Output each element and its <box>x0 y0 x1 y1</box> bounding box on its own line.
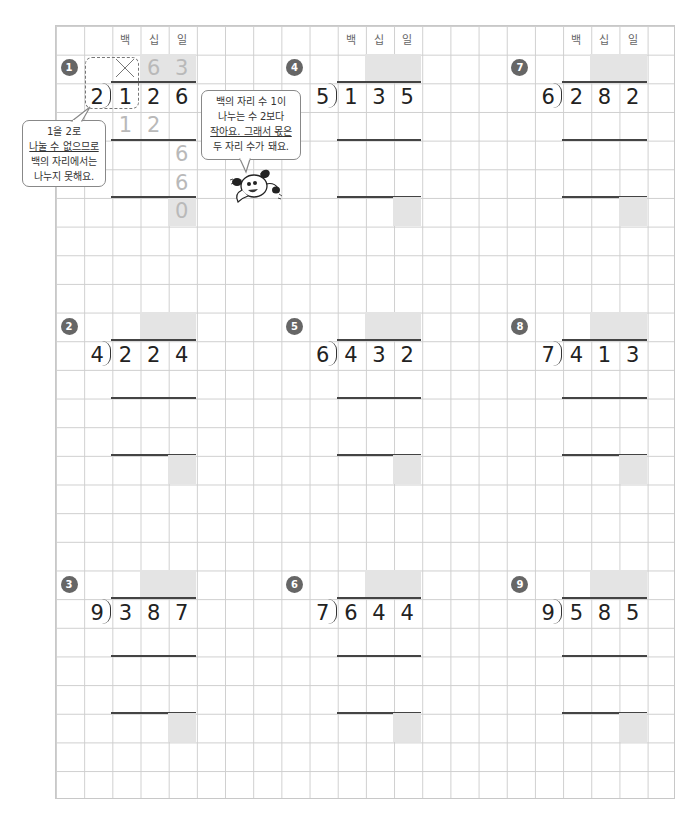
problem-number-badge: 7 <box>511 59 528 76</box>
remainder-cell[interactable] <box>393 197 421 226</box>
dividend-digit: 4 <box>365 598 393 627</box>
quotient-cell-ones[interactable] <box>393 570 421 599</box>
quotient-cell-ones[interactable] <box>619 54 647 83</box>
hint-line: 작아요. 그래서 몫은 <box>202 124 300 139</box>
place-value-header: 십 <box>590 25 618 54</box>
subtraction-line <box>111 139 196 141</box>
place-value-header: 십 <box>365 25 393 54</box>
dividend-digit: 8 <box>590 598 618 627</box>
quotient-cell-tens[interactable] <box>590 570 618 599</box>
subtraction-line <box>337 397 422 399</box>
quotient-cell-tens[interactable] <box>365 54 393 83</box>
dividend-digit: 3 <box>619 340 647 369</box>
subtraction-line <box>562 655 647 657</box>
dividend-digit: 3 <box>365 82 393 111</box>
place-value-header: 백 <box>562 25 590 54</box>
quotient-cell-ones[interactable] <box>393 312 421 341</box>
subtraction-line <box>111 397 196 399</box>
quotient-cell-ones[interactable] <box>619 312 647 341</box>
quotient-cell-ones[interactable] <box>619 570 647 599</box>
problem-number-badge: 1 <box>61 59 78 76</box>
dividend-digit: 8 <box>140 598 168 627</box>
subtraction-line <box>111 655 196 657</box>
dividend-digit: 8 <box>590 82 618 111</box>
place-value-header: 일 <box>393 25 421 54</box>
remainder-cell[interactable] <box>393 713 421 742</box>
hint-bubble-mascot: 백의 자리 수 1이 나누는 수 2보다 작아요. 그래서 몫은 두 자리 수가… <box>201 90 301 160</box>
place-value-header: 백 <box>337 25 365 54</box>
dividend-digit: 5 <box>619 598 647 627</box>
dividend-digit: 3 <box>365 340 393 369</box>
mascot-icon <box>224 168 286 208</box>
quotient-cell-ones[interactable] <box>168 570 196 599</box>
dividend-digit: 5 <box>393 82 421 111</box>
problem-number-cell: 7 <box>506 54 534 83</box>
problem-number-cell: 6 <box>280 570 308 599</box>
hint-line: 나눌 수 없으므로 <box>23 139 105 154</box>
remainder-cell[interactable] <box>168 455 196 484</box>
subtraction-line <box>562 397 647 399</box>
dividend-digit: 2 <box>562 82 590 111</box>
quotient-cell-ones[interactable] <box>168 312 196 341</box>
remainder-cell[interactable] <box>168 713 196 742</box>
subtraction-line <box>337 655 422 657</box>
hint-line: 나누는 수 2보다 <box>202 109 300 124</box>
problem-number-badge: 8 <box>511 318 528 335</box>
work-digit[interactable]: 0 <box>168 197 196 226</box>
dividend-digit: 5 <box>562 598 590 627</box>
work-digit[interactable]: 1 <box>111 111 139 140</box>
quotient-digit[interactable]: 3 <box>168 54 196 83</box>
subtraction-line <box>111 196 196 198</box>
remainder-cell[interactable] <box>393 455 421 484</box>
dividend-digit: 3 <box>111 598 139 627</box>
hint-line: 두 자리 수가 돼요. <box>202 139 300 154</box>
place-value-header: 일 <box>619 25 647 54</box>
dividend-digit: 2 <box>140 340 168 369</box>
subtraction-line <box>562 139 647 141</box>
dividend-digit: 1 <box>337 82 365 111</box>
problem-number-badge: 5 <box>286 318 303 335</box>
remainder-cell[interactable] <box>619 197 647 226</box>
remainder-cell[interactable] <box>619 713 647 742</box>
dividend-digit: 6 <box>168 82 196 111</box>
place-value-header: 백 <box>111 25 139 54</box>
dividend-digit: 4 <box>562 340 590 369</box>
hint-line: 백의 자리에서는 <box>23 154 105 169</box>
dividend-digit: 2 <box>619 82 647 111</box>
dividend-digit: 2 <box>393 340 421 369</box>
quotient-cell-tens[interactable] <box>365 312 393 341</box>
place-value-header: 십 <box>140 25 168 54</box>
hint-line: 1을 2로 <box>23 124 105 139</box>
problem-number-badge: 4 <box>286 59 303 76</box>
dividend-digit: 1 <box>590 340 618 369</box>
quotient-cell-tens[interactable] <box>140 570 168 599</box>
quotient-cell-tens[interactable] <box>140 312 168 341</box>
work-digit[interactable]: 2 <box>140 111 168 140</box>
problem-number-cell: 8 <box>506 312 534 341</box>
quotient-cell-tens[interactable] <box>590 312 618 341</box>
problem-number-cell: 4 <box>280 54 308 83</box>
dividend-digit: 7 <box>168 598 196 627</box>
problem-number-cell: 1 <box>55 54 83 83</box>
quotient-digit[interactable]: 6 <box>140 54 168 83</box>
problem-number-cell: 5 <box>280 312 308 341</box>
work-digit[interactable]: 6 <box>168 168 196 197</box>
hundreds-highlight-box <box>85 57 138 109</box>
dividend-digit: 2 <box>140 82 168 111</box>
remainder-cell[interactable] <box>619 455 647 484</box>
dividend-digit: 2 <box>111 340 139 369</box>
work-digit[interactable]: 6 <box>168 140 196 169</box>
place-value-header: 일 <box>168 25 196 54</box>
hint-bubble-left: 1을 2로 나눌 수 없으므로 백의 자리에서는 나누지 못해요. <box>22 120 106 187</box>
dividend-digit: 4 <box>393 598 421 627</box>
quotient-cell-ones[interactable] <box>393 54 421 83</box>
dividend-digit: 6 <box>337 598 365 627</box>
problem-number-badge: 6 <box>286 576 303 593</box>
bubble-pointer-left <box>70 106 100 122</box>
problem-number-badge: 3 <box>61 576 78 593</box>
worksheet: 백십일백십일백십일1632126126602422439387451355643… <box>0 0 700 824</box>
problem-number-cell: 2 <box>55 312 83 341</box>
quotient-cell-tens[interactable] <box>590 54 618 83</box>
quotient-cell-tens[interactable] <box>365 570 393 599</box>
dividend-digit: 4 <box>337 340 365 369</box>
